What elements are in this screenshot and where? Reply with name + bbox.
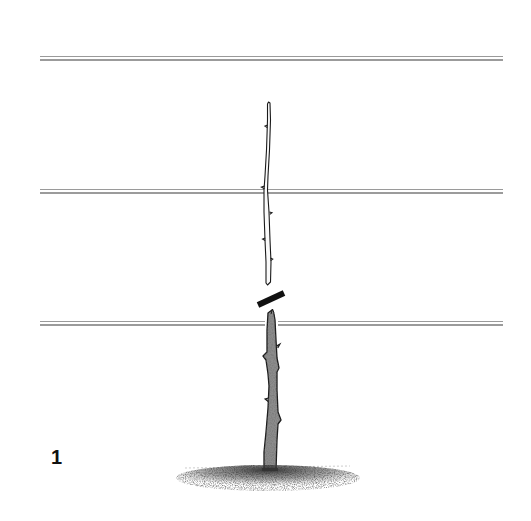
- middle-wire: [40, 190, 503, 194]
- soil-ground: [176, 465, 360, 491]
- top-wire: [40, 57, 503, 61]
- figure-number-label: 1: [51, 447, 62, 467]
- trunk: [263, 309, 281, 470]
- illustration-canvas: [0, 0, 531, 521]
- cut-mark: [258, 293, 284, 305]
- trellis-pruning-diagram: 1: [0, 0, 531, 521]
